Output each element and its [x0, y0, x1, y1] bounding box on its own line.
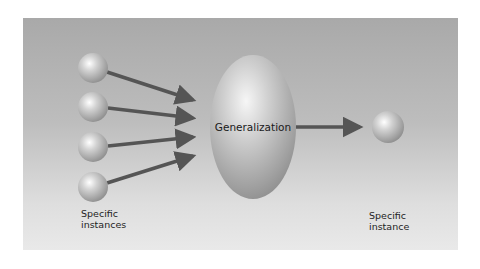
arrow-4	[107, 156, 193, 183]
arrow-2	[108, 108, 193, 118]
sphere-1	[78, 53, 108, 83]
specific-instance-sphere	[372, 111, 404, 143]
arrow-3	[108, 137, 193, 146]
generalization-label: Generalization	[210, 121, 296, 133]
specific-instance-label: Specific instance	[369, 210, 409, 232]
specific-instances-label-line1: Specific	[81, 208, 126, 219]
specific-instance-label-line2: instance	[369, 221, 409, 232]
specific-instances-spheres	[78, 53, 108, 202]
sphere-4	[78, 172, 108, 202]
arrow-1	[107, 72, 193, 100]
input-arrows	[107, 72, 193, 183]
specific-instance-label-line1: Specific	[369, 210, 409, 221]
specific-instances-label-line2: instances	[81, 219, 126, 230]
specific-instances-label: Specific instances	[81, 208, 126, 230]
sphere-2	[78, 92, 108, 122]
sphere-3	[78, 132, 108, 162]
